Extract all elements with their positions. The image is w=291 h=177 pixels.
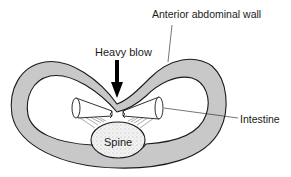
- down-arrow-icon: [111, 60, 123, 98]
- abdominal-injury-diagram: Anterior abdominal wall Heavy blow Intes…: [0, 0, 291, 177]
- wall-leader-line: [168, 25, 172, 62]
- label-intestine: Intestine: [240, 113, 280, 125]
- label-heavy-blow: Heavy blow: [95, 46, 152, 58]
- label-spine: Spine: [104, 136, 132, 148]
- label-anterior-abdominal-wall: Anterior abdominal wall: [152, 8, 261, 20]
- intestine-right-end: [155, 97, 163, 119]
- diagram-canvas: [0, 0, 291, 177]
- intestine-left-end: [72, 98, 80, 118]
